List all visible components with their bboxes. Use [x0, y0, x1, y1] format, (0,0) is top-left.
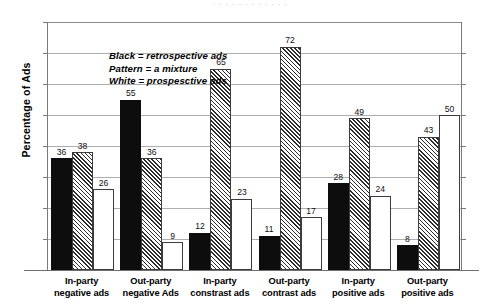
bar-value-label-white-3: 23: [225, 187, 259, 197]
bar-black-6: [397, 245, 418, 270]
bar-pattern-1: [72, 152, 93, 270]
bar-white-5: [370, 196, 391, 270]
y-tick-mark-80: [43, 22, 48, 23]
bar-value-label-white-1: 26: [87, 178, 121, 188]
bar-white-6: [439, 115, 460, 270]
bar-value-label-pattern-1: 38: [66, 141, 100, 151]
legend-item-pattern: Pattern = a mixture: [109, 63, 228, 76]
bar-group-1: 363826: [51, 22, 114, 270]
x-axis-label-6: Out-partypositive ads: [384, 276, 470, 299]
y-tick-mark-right-30: [461, 177, 466, 178]
bar-white-4: [301, 217, 322, 270]
y-tick-mark-60: [43, 84, 48, 85]
y-tick-mark-30: [43, 177, 48, 178]
legend-item-black: Black = retrospective ads: [109, 50, 228, 63]
bar-black-1: [51, 158, 72, 270]
y-tick-mark-right-40: [461, 146, 466, 147]
y-tick-mark-right-50: [461, 115, 466, 116]
bar-pattern-4: [280, 47, 301, 270]
y-tick-mark-20: [43, 208, 48, 209]
bar-white-2: [162, 242, 183, 270]
legend-item-white: White = prospesctive ads: [109, 75, 228, 88]
bar-pattern-2: [141, 158, 162, 270]
bar-black-5: [328, 183, 349, 270]
bar-value-label-white-2: 9: [156, 231, 190, 241]
bar-value-label-white-6: 50: [432, 104, 466, 114]
y-tick-mark-right-20: [461, 208, 466, 209]
y-tick-mark-10: [43, 239, 48, 240]
y-tick-mark-70: [43, 53, 48, 54]
bar-black-2: [120, 100, 141, 271]
y-tick-mark-right-60: [461, 84, 466, 85]
y-tick-mark-right-10: [461, 239, 466, 240]
bar-group-6: 84350: [397, 22, 460, 270]
bar-pattern-3: [210, 69, 231, 271]
bar-value-label-black-2: 55: [114, 88, 148, 98]
bar-black-3: [189, 233, 210, 270]
y-tick-mark-50: [43, 115, 48, 116]
x-axis-label-line-1: positive ads: [384, 288, 470, 300]
bar-group-5: 284924: [328, 22, 391, 270]
chart-legend: Black = retrospective ads Pattern = a mi…: [109, 50, 228, 88]
bar-value-label-pattern-5: 49: [342, 107, 376, 117]
bar-value-label-pattern-4: 72: [273, 35, 307, 45]
bar-value-label-pattern-2: 36: [135, 147, 169, 157]
x-axis-line: [24, 270, 479, 271]
cropped-title-sliver: · · · · · · · · · · · ·: [0, 0, 500, 8]
x-axis-label-line-0: Out-party: [384, 276, 470, 288]
y-axis-label: Percentage of Ads: [20, 30, 32, 190]
bar-value-label-white-5: 24: [363, 184, 397, 194]
bar-white-1: [93, 189, 114, 270]
bar-group-4: 117217: [259, 22, 322, 270]
bar-white-3: [231, 199, 252, 270]
bar-pattern-6: [418, 137, 439, 270]
bar-chart: · · · · · · · · · · · · Percentage of Ad…: [0, 0, 500, 306]
y-tick-mark-right-70: [461, 53, 466, 54]
plot-area: 01020304050607080 3638265536912652311721…: [47, 22, 462, 270]
bar-value-label-white-4: 17: [294, 206, 328, 216]
bar-black-4: [259, 236, 280, 270]
